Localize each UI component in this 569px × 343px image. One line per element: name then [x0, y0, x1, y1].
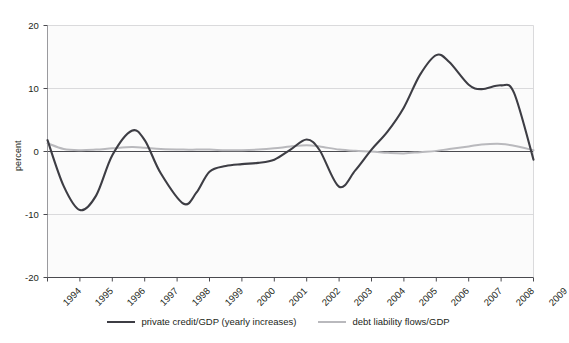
- y-tick-label: 20: [11, 20, 39, 31]
- legend-swatch-icon: [107, 321, 135, 323]
- y-tick-label: 10: [11, 83, 39, 94]
- legend-item[interactable]: private credit/GDP (yearly increases): [107, 316, 296, 327]
- legend-label: private credit/GDP (yearly increases): [141, 316, 296, 327]
- y-tick-label: -20: [11, 272, 39, 283]
- legend-label: debt liability flows/GDP: [352, 316, 449, 327]
- legend-swatch-icon: [318, 321, 346, 323]
- y-tick-label: -10: [11, 209, 39, 220]
- legend-item[interactable]: debt liability flows/GDP: [318, 316, 449, 327]
- chart-legend: private credit/GDP (yearly increases)deb…: [0, 316, 557, 327]
- y-tick-label: 0: [11, 146, 39, 157]
